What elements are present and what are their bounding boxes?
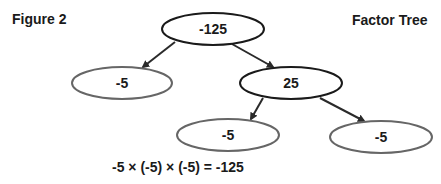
node-root: -125: [162, 13, 264, 45]
arrow-root-to-left: [143, 42, 175, 67]
arrow-mid-to-br: [320, 98, 364, 121]
equation: -5 × (-5) × (-5) = -125: [112, 159, 244, 175]
node-value: 25: [283, 75, 299, 91]
node-bl: -5: [177, 119, 279, 151]
arrow-mid-to-bl: [251, 98, 263, 119]
node-value: -5: [222, 127, 235, 143]
factor-tree: -125-525-5-5: [0, 0, 441, 184]
node-value: -5: [375, 129, 388, 145]
node-mid: 25: [240, 67, 342, 99]
node-value: -5: [116, 75, 129, 91]
arrow-root-to-mid: [232, 44, 273, 67]
node-left: -5: [72, 67, 172, 99]
node-value: -125: [199, 21, 227, 37]
node-br: -5: [330, 121, 432, 153]
